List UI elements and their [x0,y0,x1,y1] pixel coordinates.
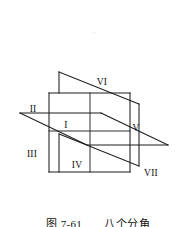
octant-label-1: I [64,120,67,130]
octant-label-6: VI [97,77,107,87]
horizontal-plane-left-oblique-edge [20,113,87,145]
figure-caption-gap [82,218,104,227]
figure-caption: 图 7-61 八个分角 [0,200,186,227]
octant-label-7: VII [144,168,158,178]
octant-label-5: V [132,123,139,133]
page-speck [94,32,95,33]
figure-caption-number: 图 7-61 [46,218,82,227]
figure-caption-title: 八个分角 [104,218,150,227]
figure-container: I II III IV V VI VII 图 7-61 八个分角 [0,0,186,227]
octant-label-2: II [30,104,37,114]
octant-label-4: IV [72,160,82,170]
octant-label-3: III [27,149,37,159]
octant-diagram: I II III IV V VI VII [0,0,186,201]
